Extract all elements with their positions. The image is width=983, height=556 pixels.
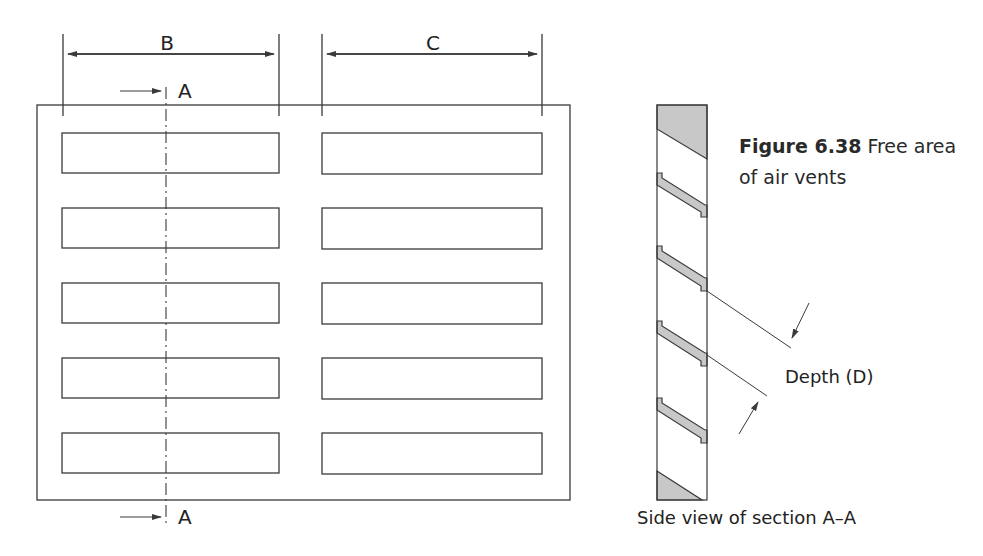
slot <box>62 358 279 398</box>
section-label-top: A <box>178 79 192 103</box>
depth-label: Depth (D) <box>785 366 873 387</box>
slot <box>62 133 279 173</box>
dimension-b-label: B <box>160 31 174 55</box>
depth-arrow-top <box>792 303 809 338</box>
depth-extension-line <box>707 291 791 348</box>
figure-number: Figure 6.38 <box>739 135 861 157</box>
depth-arrow-bottom <box>739 402 758 434</box>
dimension-c-label: C <box>426 31 440 55</box>
vent-diagram: B C A A Depth (D) Side view of section A… <box>0 0 983 556</box>
slot <box>322 358 542 399</box>
slots-right-column <box>322 133 542 474</box>
slot <box>322 133 542 174</box>
slot <box>322 283 542 324</box>
depth-extension-line <box>707 355 767 396</box>
louvre-blade <box>657 321 707 366</box>
bottom-wedge <box>657 471 702 500</box>
side-frame <box>657 105 707 500</box>
figure-caption: Figure 6.38 Free area of air vents <box>739 131 979 193</box>
slots-left-column <box>62 133 279 473</box>
slot <box>322 208 542 249</box>
slot <box>62 208 279 248</box>
side-view-caption: Side view of section A–A <box>637 507 857 528</box>
louvre-blade <box>657 398 707 443</box>
louvre-blade <box>657 173 707 217</box>
top-wedge <box>657 105 707 159</box>
slot <box>62 283 279 323</box>
vent-frame <box>37 105 570 500</box>
slot <box>322 433 542 474</box>
louvre-blade <box>657 246 707 291</box>
section-label-bottom: A <box>178 505 192 529</box>
front-view <box>37 34 570 525</box>
slot <box>62 433 279 473</box>
